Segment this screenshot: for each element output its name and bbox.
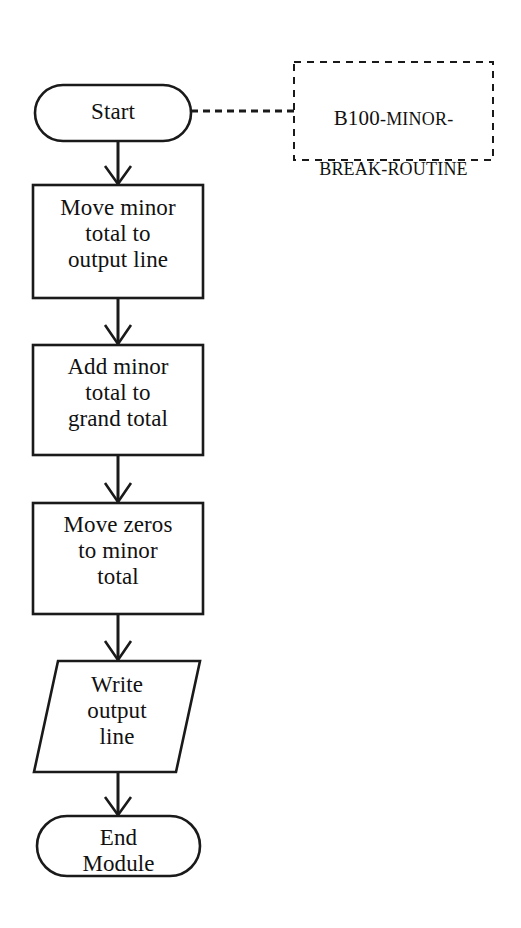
node-start-shape — [35, 85, 191, 141]
node-move-zeros-shape — [33, 503, 203, 614]
annotation-box — [294, 62, 493, 160]
node-move-minor-total-shape — [33, 185, 203, 298]
node-add-minor-total-shape — [33, 345, 203, 455]
node-end-module-shape — [37, 816, 200, 876]
flowchart-svg — [0, 0, 521, 928]
flowchart-canvas: Start Move minor total to output line Ad… — [0, 0, 521, 928]
node-write-output-line-shape — [34, 661, 200, 772]
